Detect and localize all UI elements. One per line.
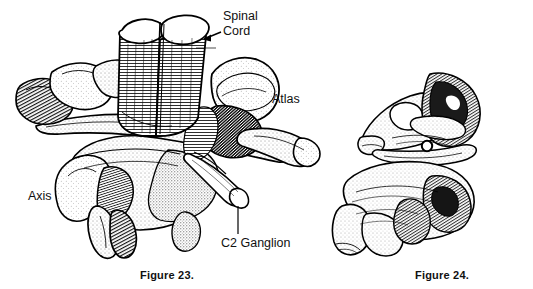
figure-23-caption: Figure 23. <box>140 269 194 281</box>
spinal-cord <box>118 15 209 136</box>
figure-24-caption: Figure 24. <box>415 269 469 281</box>
label-c2-ganglion: C2 Ganglion <box>221 236 291 251</box>
label-spinal-cord-line1: Spinal <box>223 9 258 24</box>
figure-24-circle-marker <box>422 141 432 151</box>
label-spinal-cord: Spinal Cord <box>223 9 258 39</box>
label-axis: Axis <box>28 189 52 204</box>
label-atlas: Atlas <box>272 92 300 107</box>
label-spinal-cord-line2: Cord <box>223 24 258 39</box>
